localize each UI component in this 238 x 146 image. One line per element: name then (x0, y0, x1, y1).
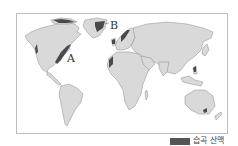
australia (185, 90, 215, 114)
world-map: A B (16, 13, 228, 134)
southeast-asia-islands (181, 76, 203, 86)
greenland (83, 18, 107, 38)
world-map-graphic (17, 14, 227, 133)
japan (202, 44, 209, 56)
india (159, 62, 169, 76)
legend-label-fold-mountains: 습곡 산맥 (193, 137, 224, 145)
legend-swatch-fold-mountains (170, 138, 190, 145)
madagascar (145, 90, 148, 100)
legend: 습곡 산맥 (170, 136, 224, 146)
central-america (47, 72, 61, 85)
label-a: A (67, 53, 75, 64)
label-b: B (110, 20, 118, 31)
south-america (59, 84, 83, 126)
new-zealand (215, 112, 222, 120)
